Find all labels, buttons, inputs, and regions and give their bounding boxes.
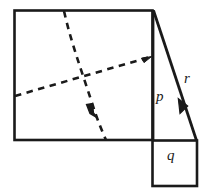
- dashed-falling-arrowhead: [87, 104, 98, 119]
- label-p: p: [155, 88, 164, 104]
- label-r: r: [184, 70, 190, 86]
- dashed-rising-arrowhead: [142, 57, 152, 63]
- dashed-diagonal-rising: [15, 57, 150, 96]
- label-q: q: [167, 147, 175, 163]
- segment-r-line: [154, 11, 197, 141]
- diagram-canvas: p q r: [0, 0, 211, 194]
- small-square: [153, 141, 198, 187]
- large-square: [15, 11, 153, 141]
- geometry-figure: p q r: [0, 0, 211, 194]
